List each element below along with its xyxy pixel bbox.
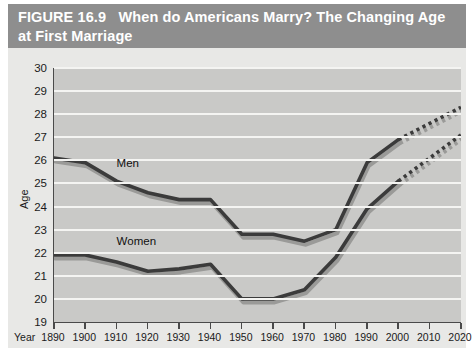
x-axis-tick: [53, 323, 55, 329]
series-projection-men: [398, 107, 461, 139]
x-axis-tick: [178, 323, 180, 329]
figure-number-label: FIGURE 16.9: [18, 9, 106, 25]
chart-frame: Age Year MenWomen 3029282726252423222120…: [8, 48, 466, 348]
x-axis-tick-label: 1940: [198, 331, 221, 343]
x-axis-tick-label: 2020: [448, 331, 471, 343]
x-axis-tick: [429, 323, 431, 329]
plot-area: MenWomen: [53, 68, 461, 323]
x-axis-tick-label: 1960: [260, 331, 283, 343]
gridline: [54, 229, 461, 231]
y-axis-tick-label: 22: [17, 247, 47, 259]
figure-header-band: FIGURE 16.9 When do Americans Marry? The…: [8, 4, 466, 48]
gridline: [54, 136, 461, 138]
series-layer: [54, 68, 461, 322]
x-axis-tick: [397, 323, 399, 329]
gridline: [54, 90, 461, 92]
y-axis-tick-label: 25: [17, 177, 47, 189]
y-axis-tick-label: 19: [17, 316, 47, 328]
gridline: [54, 182, 461, 184]
series-line-women: [54, 181, 398, 299]
series-label-men: Men: [117, 157, 139, 169]
figure-title-spacer: [106, 9, 118, 25]
x-axis-tick: [116, 323, 118, 329]
x-axis-tick: [241, 323, 243, 329]
figure-chart-16-9: FIGURE 16.9 When do Americans Marry? The…: [0, 0, 474, 352]
y-axis-tick-label: 23: [17, 224, 47, 236]
x-axis-tick-label: 1950: [229, 331, 252, 343]
x-axis-tick: [147, 323, 149, 329]
gridline: [54, 206, 461, 208]
x-axis-tick: [460, 323, 462, 329]
x-axis-tick: [272, 323, 274, 329]
x-axis-tick-label: 1990: [354, 331, 377, 343]
x-axis-tick-label: 1930: [167, 331, 190, 343]
x-axis-tick-label: 2010: [417, 331, 440, 343]
series-label-women: Women: [117, 235, 156, 247]
x-axis-tick: [84, 323, 86, 329]
gridline: [54, 252, 461, 254]
y-axis-tick-label: 20: [17, 293, 47, 305]
y-axis-tick-label: 30: [17, 62, 47, 74]
y-axis-tick-label: 24: [17, 201, 47, 213]
x-axis-tick-label: 2000: [386, 331, 409, 343]
series-line-men: [54, 140, 398, 242]
x-axis-tick-label: 1900: [73, 331, 96, 343]
gridline: [54, 113, 461, 115]
y-axis-tick-label: 26: [17, 154, 47, 166]
gridline: [54, 159, 461, 161]
x-axis-tick: [366, 323, 368, 329]
x-axis-tick: [335, 323, 337, 329]
gridline: [54, 275, 461, 277]
x-axis-tick: [210, 323, 212, 329]
series-projection-women: [398, 135, 461, 181]
figure-header-text: FIGURE 16.9 When do Americans Marry? The…: [18, 8, 456, 46]
x-axis-tick-label: 1920: [135, 331, 158, 343]
x-axis-tick-label: 1970: [292, 331, 315, 343]
x-axis-tick-label: 1980: [323, 331, 346, 343]
series-projection-shadow: [400, 138, 461, 184]
y-axis-tick-label: 29: [17, 85, 47, 97]
x-axis-title: Year: [14, 331, 35, 343]
x-axis-tick: [303, 323, 305, 329]
y-axis-tick-label: 28: [17, 108, 47, 120]
y-axis-tick-label: 27: [17, 131, 47, 143]
x-axis-tick-label: 1910: [104, 331, 127, 343]
x-axis-tick-label: 1890: [41, 331, 64, 343]
y-axis-tick-label: 21: [17, 270, 47, 282]
gridline: [54, 298, 461, 300]
gridline: [54, 67, 461, 69]
